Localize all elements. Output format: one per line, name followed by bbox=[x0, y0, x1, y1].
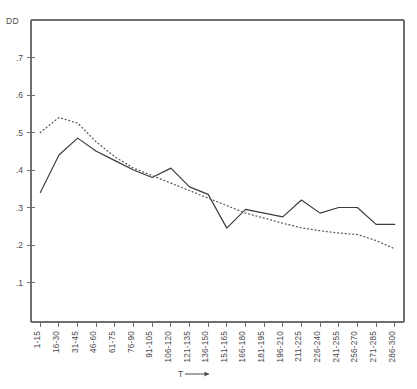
x-tick-label: 196-210 bbox=[276, 331, 285, 363]
x-tick-label: 31-45 bbox=[71, 331, 80, 353]
y-tick-label: .7 bbox=[16, 53, 23, 63]
x-tick-label: 16-30 bbox=[52, 331, 61, 353]
y-tick-label: .2 bbox=[16, 240, 23, 250]
y-tick-label: .3 bbox=[16, 203, 23, 213]
x-tick-label: 106-120 bbox=[164, 331, 173, 363]
y-tick-label: .4 bbox=[16, 165, 23, 175]
data-series-solid bbox=[40, 138, 394, 228]
x-tick-label: 286-300 bbox=[388, 331, 397, 363]
x-tick-label: 166-180 bbox=[238, 331, 247, 363]
x-axis-arrow-head bbox=[205, 371, 210, 376]
chart-container: DD.7.6.5.4.3.2.11-1516-3031-4546-6061-75… bbox=[0, 0, 417, 389]
x-tick-label: 271-285 bbox=[369, 331, 378, 363]
x-tick-label: 136-150 bbox=[201, 331, 210, 363]
data-series-dotted bbox=[40, 118, 394, 249]
x-tick-label: 46-60 bbox=[89, 331, 98, 353]
x-tick-label: 91-105 bbox=[145, 331, 154, 358]
y-axis-label: DD bbox=[6, 16, 19, 26]
x-tick-label: 226-240 bbox=[313, 331, 322, 363]
x-axis-label: T bbox=[178, 369, 183, 379]
x-tick-label: 241-255 bbox=[332, 331, 341, 363]
x-tick-label: 181-195 bbox=[257, 331, 266, 363]
x-tick-label: 1-15 bbox=[33, 331, 42, 348]
line-chart: DD.7.6.5.4.3.2.11-1516-3031-4546-6061-75… bbox=[0, 0, 417, 389]
y-tick-label: .5 bbox=[16, 128, 23, 138]
x-tick-label: 61-75 bbox=[108, 331, 117, 353]
y-tick-label: .6 bbox=[16, 90, 23, 100]
y-tick-label: .1 bbox=[16, 278, 23, 288]
x-tick-label: 256-270 bbox=[350, 331, 359, 363]
x-tick-label: 121-135 bbox=[183, 331, 192, 363]
x-tick-label: 151-165 bbox=[220, 331, 229, 363]
x-tick-label: 211-225 bbox=[294, 331, 303, 362]
x-tick-label: 76-90 bbox=[127, 331, 136, 353]
